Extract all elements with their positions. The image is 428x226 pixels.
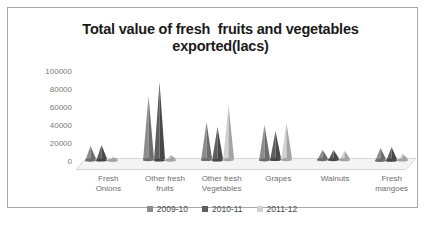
y-axis-labels: 020000400006000080000100000 bbox=[22, 70, 72, 170]
chart-frame: Total value of fresh fruits and vegetabl… bbox=[7, 7, 418, 208]
chart-cone bbox=[317, 150, 328, 161]
legend-item-2010-11[interactable]: 2010-11 bbox=[202, 204, 243, 214]
plot-area bbox=[76, 70, 416, 170]
legend-swatch-icon bbox=[202, 206, 208, 212]
chart-cone bbox=[85, 146, 96, 161]
chart-cone bbox=[107, 157, 118, 162]
y-axis-tick-label: 40000 bbox=[50, 121, 72, 130]
x-axis-category-label: Grapes bbox=[265, 174, 291, 184]
chart-cone bbox=[386, 147, 397, 161]
x-axis-category-label: Fresh mangoes bbox=[375, 174, 408, 194]
chart-cone bbox=[96, 145, 107, 161]
chart-legend: 2009-102010-112011-12 bbox=[8, 204, 428, 214]
cone-series-container bbox=[76, 70, 416, 170]
x-axis-category-label: Other fresh fruits bbox=[145, 174, 185, 194]
chart-cone bbox=[270, 131, 281, 161]
chart-cone bbox=[165, 155, 176, 161]
chart-cone bbox=[154, 82, 165, 161]
chart-cone bbox=[339, 151, 350, 161]
chart-cone bbox=[143, 96, 154, 161]
chart-cone bbox=[223, 105, 234, 161]
y-axis-tick-label: 20000 bbox=[50, 139, 72, 148]
chart-cone bbox=[281, 123, 292, 161]
x-axis-category-label: Walnuts bbox=[321, 174, 350, 184]
chart-cone bbox=[397, 154, 408, 161]
x-axis-labels: Fresh OnionsOther fresh fruitsOther fres… bbox=[76, 174, 416, 202]
legend-label: 2010-11 bbox=[212, 204, 243, 214]
legend-swatch-icon bbox=[257, 206, 263, 212]
chart-title: Total value of fresh fruits and vegetabl… bbox=[48, 21, 393, 55]
x-axis-category-label: Other fresh Vegetables bbox=[202, 174, 242, 194]
y-axis-tick-label: 80000 bbox=[50, 85, 72, 94]
x-axis-category-label: Fresh Onions bbox=[96, 174, 121, 194]
y-axis-tick-label: 0 bbox=[68, 157, 72, 166]
chart-cone bbox=[328, 150, 339, 161]
legend-label: 2011-12 bbox=[267, 204, 298, 214]
y-axis-tick-label: 100000 bbox=[45, 67, 72, 76]
chart-cone bbox=[375, 148, 386, 162]
legend-label: 2009-10 bbox=[157, 204, 188, 214]
legend-item-2009-10[interactable]: 2009-10 bbox=[147, 204, 188, 214]
chart-cone bbox=[212, 127, 223, 161]
chart-cone bbox=[201, 122, 212, 161]
legend-item-2011-12[interactable]: 2011-12 bbox=[257, 204, 298, 214]
legend-swatch-icon bbox=[147, 206, 153, 212]
chart-cone bbox=[259, 125, 270, 161]
y-axis-tick-label: 60000 bbox=[50, 103, 72, 112]
screenshot-root: Total value of fresh fruits and vegetabl… bbox=[0, 0, 428, 226]
